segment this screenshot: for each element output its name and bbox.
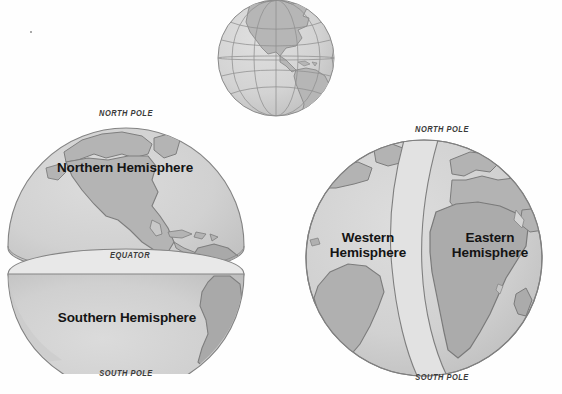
- reference-globe: [206, 0, 346, 124]
- hemispheres-diagram: Northern Hemisphere Southern Hemisphere …: [0, 0, 562, 394]
- label-south-pole-right: SOUTH POLE: [389, 372, 495, 382]
- label-equator: EQUATOR: [77, 250, 183, 260]
- label-north-pole-right: NORTH POLE: [389, 124, 495, 134]
- dust-speck: [30, 31, 32, 33]
- label-north-pole-left: NORTH POLE: [73, 108, 179, 118]
- label-south-pole-left: SOUTH POLE: [73, 368, 179, 378]
- western-eastern-globe: [300, 136, 562, 386]
- southern-hemisphere-shape: [8, 249, 244, 374]
- northern-southern-globe: [2, 124, 250, 374]
